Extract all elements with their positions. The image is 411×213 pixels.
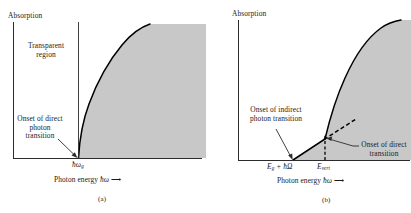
x-axis-label-prefix-b: Photon energy (277, 176, 323, 185)
x-axis-label-symbol-b: ħω (323, 176, 332, 185)
x-tick2-subscript: vert (322, 165, 330, 171)
onset-direct-line3: transition (26, 131, 55, 140)
x-axis-label-b: Photon energy ħω ⟶ (277, 177, 344, 186)
panel-caption-a: (a) (98, 195, 106, 204)
absorption-figure: Absorption Transparent region Onset of d… (0, 0, 411, 213)
panel-b: Absorption Onset of indirect photon tran… (205, 0, 411, 213)
shaded-absorption-region-a (79, 24, 207, 158)
onset-direct-annotation-b: Onset of direct transition (357, 141, 411, 158)
onset-direct-annotation-a: Onset of direct photon transition (6, 115, 74, 141)
x-tick1-suffix: + ħΩ (274, 162, 292, 171)
onset-indirect-line2: photon transition (250, 114, 302, 123)
x-axis-label-symbol-a: ħω (100, 175, 109, 184)
transparent-region-line2: region (36, 50, 55, 59)
shaded-absorption-region-b (293, 20, 411, 160)
y-axis-label-a: Absorption (8, 12, 42, 21)
onset-indirect-annotation-b: Onset of indirect photon transition (238, 106, 314, 123)
x-axis-label-a: Photon energy ħω ⟶ (54, 176, 121, 185)
x-tick-label-hw-g: ħωg (72, 161, 84, 171)
x-tick-subscript: g (81, 163, 84, 169)
panel-caption-b: (b) (322, 196, 330, 205)
x-axis-label-arrow-a: ⟶ (111, 175, 121, 184)
transparent-region-label-a: Transparent region (22, 42, 70, 59)
onset-direct-b-line2: transition (370, 149, 399, 158)
panel-a: Absorption Transparent region Onset of d… (0, 0, 206, 213)
x-tick-label-evert: Evert (317, 163, 330, 173)
x-axis-label-prefix-a: Photon energy (54, 175, 100, 184)
annotation-arrow-indirect-b (276, 129, 293, 160)
y-axis-label-b: Absorption (232, 10, 266, 19)
x-tick-symbol: ħω (72, 160, 81, 169)
x-tick-label-eg-homega: Eg + ħΩ (267, 163, 293, 173)
x-axis-label-arrow-b: ⟶ (334, 176, 344, 185)
annotation-arrow-a (58, 139, 78, 158)
